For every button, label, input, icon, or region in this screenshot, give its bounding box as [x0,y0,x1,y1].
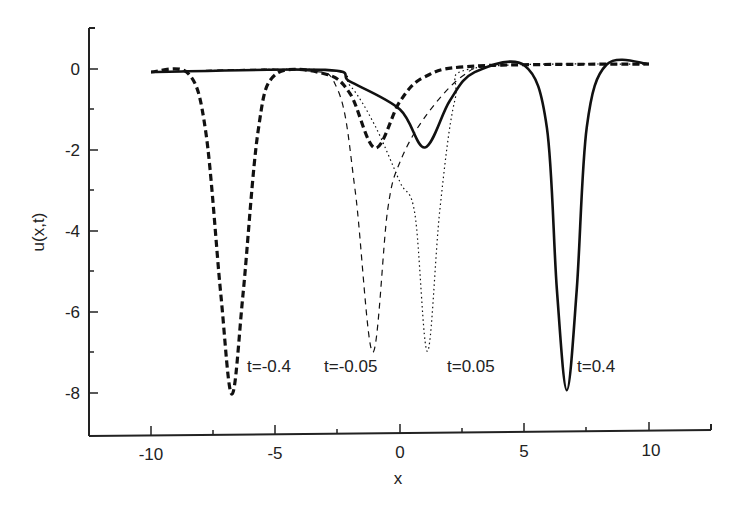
y-tick-label: -2 [65,141,80,160]
axes [89,28,711,436]
chart: 0 -2 -4 -6 -8 -10 -5 0 5 10 x u(x,t) t=-… [0,0,738,507]
x-tick-label: 5 [519,442,528,461]
y-axis-title: u(x,t) [29,213,48,252]
plot-area: 0 -2 -4 -6 -8 -10 -5 0 5 10 x u(x,t) t=-… [0,0,738,507]
y-tick-label: -8 [65,384,80,403]
x-tick-label: -5 [267,444,282,463]
annotation-t-0.05: t=0.05 [447,357,495,376]
y-tick-label: -6 [65,303,80,322]
x-axis-title: x [394,469,403,488]
y-ticks [89,69,98,393]
x-tick-label: 0 [395,443,404,462]
annotation-t-0.4: t=0.4 [577,357,615,376]
series-group [151,60,649,395]
annotation-t-neg-0.05: t=-0.05 [324,357,377,376]
series-t=-0.4 [151,64,649,394]
y-tick-label: -4 [65,222,80,241]
annotation-t-neg-0.4: t=-0.4 [247,357,291,376]
y-tick-label: 0 [71,60,80,79]
x-tick-label: -10 [139,445,164,464]
x-tick-label: 10 [642,441,661,460]
